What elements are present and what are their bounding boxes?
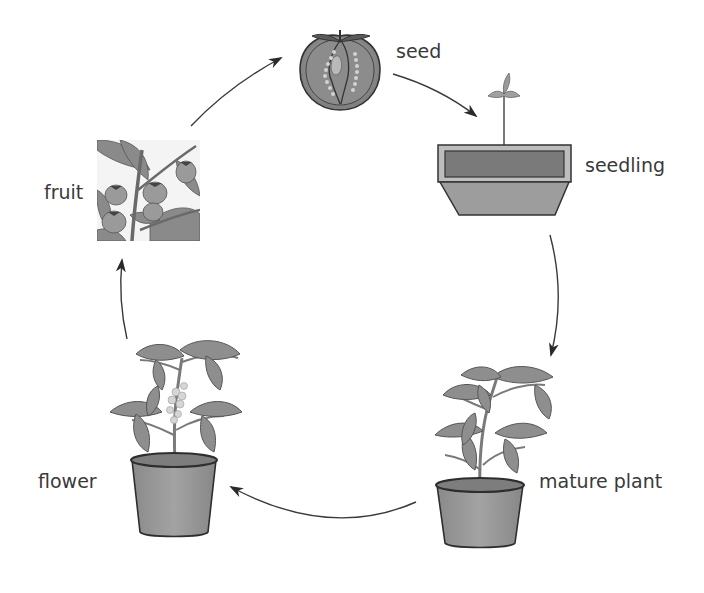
fruiting-branch-icon bbox=[97, 140, 200, 241]
arrow-flower-to-fruit bbox=[121, 260, 127, 339]
life-cycle-diagram: seed seedling mature plant flower fruit bbox=[0, 0, 704, 593]
seedling-tray-icon bbox=[438, 73, 571, 215]
arrow-mature-to-flower bbox=[231, 487, 416, 518]
stage-label-seed: seed bbox=[396, 40, 441, 62]
arrow-seed-to-seedling bbox=[393, 74, 476, 116]
flowering-plant-icon bbox=[110, 341, 242, 537]
stage-label-fruit: fruit bbox=[44, 181, 83, 203]
stage-label-mature-plant: mature plant bbox=[539, 470, 662, 492]
tomato-cross-section-icon bbox=[300, 30, 380, 110]
stage-label-flower: flower bbox=[38, 470, 97, 492]
arrow-fruit-to-seed bbox=[191, 58, 281, 126]
potted-plant-icon bbox=[435, 367, 553, 548]
diagram-graphics bbox=[0, 0, 704, 593]
stage-label-seedling: seedling bbox=[585, 154, 665, 176]
arrow-seedling-to-mature bbox=[550, 235, 558, 355]
